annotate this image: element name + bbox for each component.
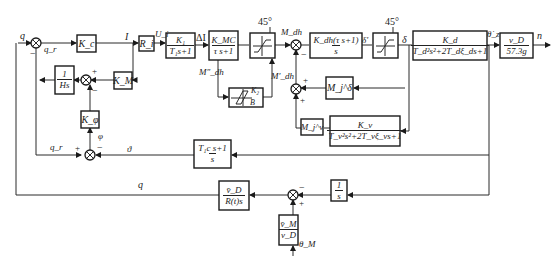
block-hs-num: 1 [60,70,69,79]
summ-minus-sign: − [301,50,307,60]
block-kmc-den: τ s+1 [212,45,236,56]
sat2-angle-label: 45° [385,17,399,27]
sat1-angle-label: 45° [258,17,272,27]
block-integ-den: s [335,190,343,201]
block-mj-delta: M_j^δ [326,77,353,99]
block-ri-label: R_i [140,39,154,49]
block-kv-den: T_v²s²+2T_vξ_vs+1 [327,130,404,141]
block-kdh-num: K_dh(τ s+1) [311,36,360,45]
block-kc: K_c [77,35,96,52]
signal-m-dh-p: M′_dh [271,72,294,81]
block-integ-num: 1 [335,181,344,190]
block-k1-num: K₁ [174,36,187,45]
sum-junctions [31,38,301,200]
sum3-minus-sign: − [97,143,103,153]
block-integrator: 1s [331,180,347,201]
block-kd-den: T_d²s²+2T_dξ_ds+1 [411,45,489,56]
block-k1: K₁T₁s+1 [166,33,195,58]
sum4-plus-sign: + [299,199,304,208]
block-vd-den: 57.3g [504,45,528,56]
signal-theta-m: θ_M [299,240,315,249]
signal-n: n [537,31,542,41]
signal-q-r: q_r [44,45,57,54]
block-vd-r: v̄_DR(t)s [219,181,249,210]
block-vd-57: v_D57.3g [500,33,533,58]
block-t1c: T₁c s+1s [194,140,231,168]
sum1-minus-sign: − [30,49,36,59]
block-vm-den: v_D [279,229,298,240]
sum2-minus-sign: − [92,86,98,96]
hyst-b-label: B [250,99,255,107]
block-vm-num: v̄_M [279,220,299,229]
block-vm: v̄_Mv_D [279,215,298,245]
block-vdr-den: R(t)s [223,195,245,206]
signal-m-dh: M_dh [281,28,302,37]
signal-theta-dot: θ̇_z [487,30,499,39]
block-kmc: K_MCτ s+1 [209,31,238,60]
block-diagram: K_c R_i K₁T₁s+1 K_MCτ s+1 K_dh(τ s+1)s K… [0,0,554,256]
signal-m-dh-pp: M″_dh [199,68,224,77]
block-hs-den: Hs [57,79,71,90]
block-kv: K_vT_v²s²+2T_vξ_vs+1 [330,116,400,146]
sum4-minus-sign: − [299,183,305,193]
block-kv-num: K_v [356,121,375,130]
block-hs: 1Hs [55,66,74,94]
signal-q-fb: q [138,180,143,190]
signal-q-r2: q_r [50,143,63,152]
block-mj-v-label: M_j^v [301,123,323,132]
block-k1-den: T₁s+1 [167,45,193,56]
block-vd-num: v_D [507,36,526,45]
block-kphi-label: K_φ [81,115,98,125]
signal-theta: ϑ [127,145,131,154]
summp-plus-top-sign: + [303,76,308,85]
block-kmc-num: K_MC [209,36,237,45]
block-kdh-den: s [332,45,340,56]
block-kc-label: K_c [78,39,94,49]
signal-delta: δ [402,35,407,45]
block-mj-v: M_j^v [301,119,323,135]
block-kdh: K_dh(τ s+1)s [310,33,362,58]
block-vdr-num: v̄_D [225,186,244,195]
block-km: K_M [114,72,132,89]
block-kd: K_dT_d²s²+2T_dξ_ds+1 [413,31,487,60]
signal-q-in: q [20,31,25,41]
block-km-label: K_M [113,76,133,86]
hyst-k2-label: K₂ [251,87,259,95]
block-mj-delta-label: M_j^δ [327,83,352,93]
sum2-plus-sign: + [92,67,97,76]
block-t1c-num: T₁c s+1 [196,144,228,153]
block-t1c-den: s [209,153,217,164]
signal-delta-i: ΔI [196,33,206,43]
signal-i: I [125,32,128,42]
block-kd-num: K_d [440,36,459,45]
sum3-plus-sign: + [75,144,80,153]
block-ri: R_i [139,36,154,51]
signal-phi: φ [98,132,103,141]
summp-plus-bottom-sign: + [300,96,305,105]
signal-delta-prime: δ′ [362,36,368,45]
signal-u-i: U_i [155,30,169,39]
block-kphi: K_φ [81,111,99,128]
